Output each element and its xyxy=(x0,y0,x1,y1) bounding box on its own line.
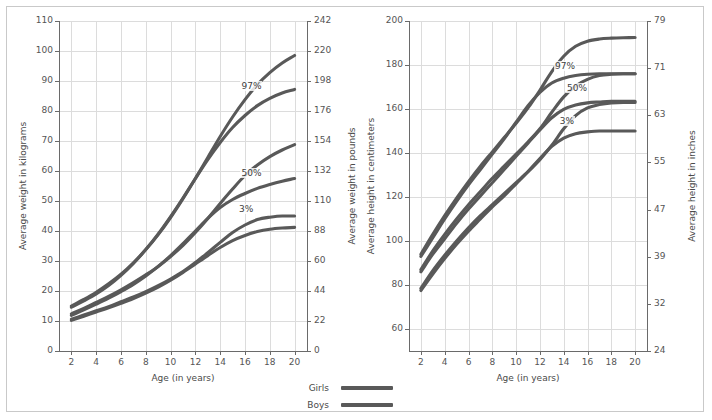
legend-item-label: Girls xyxy=(281,381,329,395)
legend-item-swatch xyxy=(341,403,393,407)
series-lines xyxy=(355,7,705,379)
series-line xyxy=(71,56,294,307)
percentile-label: 50% xyxy=(240,168,262,178)
series-line xyxy=(71,89,294,307)
percentile-label: 97% xyxy=(240,81,262,91)
chart-frame: 0102030405060708090100110022446088110132… xyxy=(6,6,704,412)
chart-legend: GirlsBoys xyxy=(7,379,705,413)
percentile-label: 3% xyxy=(559,116,575,126)
legend-item: Boys xyxy=(281,398,461,412)
percentile-label: 97% xyxy=(554,61,576,71)
percentile-label: 50% xyxy=(566,83,588,93)
legend-item: Girls xyxy=(281,381,461,395)
series-line xyxy=(421,131,635,291)
legend-item-swatch xyxy=(341,386,393,390)
weight-chart-panel: 0102030405060708090100110022446088110132… xyxy=(7,7,355,379)
percentile-label: 3% xyxy=(238,204,254,214)
legend-item-label: Boys xyxy=(281,398,329,412)
height-chart-panel: 6080100120140160180200243239475563717924… xyxy=(355,7,705,379)
series-lines xyxy=(7,7,355,379)
